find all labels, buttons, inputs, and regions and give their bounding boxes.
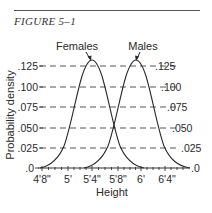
svg-text:5'8": 5'8" bbox=[109, 173, 127, 185]
density-chart: Females Males .125 .100 .075 .050 .025 .… bbox=[0, 0, 212, 213]
males-label: Males bbox=[128, 40, 158, 52]
svg-text:.125: .125 bbox=[155, 60, 176, 72]
x-tick-labels: 4'8" 5' 5'4" 5'8" 6' 6'4" bbox=[33, 173, 176, 185]
x-axis-label: Height bbox=[96, 186, 128, 198]
svg-text:6': 6' bbox=[137, 173, 145, 185]
svg-text:6'4": 6'4" bbox=[158, 173, 176, 185]
females-label: Females bbox=[56, 40, 99, 52]
svg-text:.075: .075 bbox=[167, 101, 188, 113]
svg-text:.075: .075 bbox=[18, 101, 39, 113]
svg-text:5'4": 5'4" bbox=[83, 173, 101, 185]
svg-text:.0: .0 bbox=[191, 162, 200, 174]
svg-text:5': 5' bbox=[64, 173, 72, 185]
svg-text:.125: .125 bbox=[18, 60, 39, 72]
svg-text:4'8": 4'8" bbox=[33, 173, 51, 185]
gridlines bbox=[40, 66, 178, 148]
y-ticks-left: .125 .100 .075 .050 .025 .0 bbox=[18, 60, 39, 174]
svg-text:.050: .050 bbox=[18, 122, 39, 134]
svg-text:.100: .100 bbox=[18, 81, 39, 93]
y-ticks-right: .125 .100 .075 .050 .025 .0 bbox=[155, 60, 202, 174]
svg-text:.025: .025 bbox=[181, 142, 202, 154]
y-axis-label: Probability density bbox=[4, 70, 16, 160]
svg-text:.050: .050 bbox=[172, 122, 193, 134]
svg-text:.100: .100 bbox=[161, 81, 182, 93]
females-curve bbox=[40, 60, 144, 168]
males-curve bbox=[84, 60, 190, 168]
svg-text:.025: .025 bbox=[18, 142, 39, 154]
